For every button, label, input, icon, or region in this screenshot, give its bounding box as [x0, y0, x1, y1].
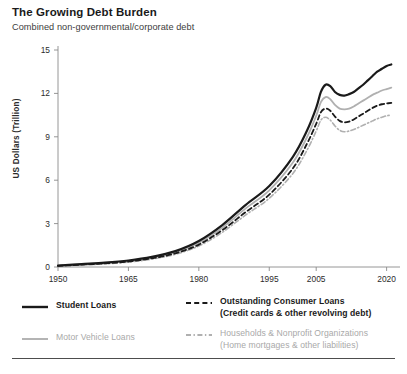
y-tick-label: 0 [45, 262, 50, 272]
x-tick-label: 1980 [190, 274, 209, 284]
legend-label-households-line2: (Home mortgages & other liabilities) [220, 340, 358, 350]
y-axis-label: US Dollars (Trillion) [12, 79, 21, 199]
series-line [58, 103, 391, 266]
legend-swatch-dashed-dark-icon [186, 297, 212, 309]
series-line [58, 88, 391, 266]
y-tick-label: 6 [45, 175, 50, 185]
page-title: The Growing Debt Burden [12, 6, 157, 18]
chart-legend: Student Loans Outstanding Consumer Loans… [0, 296, 407, 358]
chart-container: The Growing Debt Burden Combined non-gov… [0, 0, 407, 374]
x-tick-label: 2005 [307, 274, 326, 284]
legend-label-consumer-loans-line2: (Credit cards & other revolving debt) [220, 308, 371, 318]
series-line [58, 115, 391, 266]
legend-swatch-dashdot-light-icon [186, 329, 212, 341]
y-tick-label: 15 [41, 45, 51, 55]
legend-item-motor-vehicle-loans: Motor Vehicle Loans [22, 332, 135, 345]
legend-item-consumer-loans: Outstanding Consumer Loans (Credit cards… [186, 296, 371, 319]
legend-bottom-divider [12, 358, 395, 359]
x-tick-label: 1950 [49, 274, 68, 284]
legend-item-households: Households & Nonprofit Organizations (Ho… [186, 328, 368, 351]
legend-swatch-solid-dark-icon [22, 301, 48, 313]
plot-area: US Dollars (Trillion) 036912151950196519… [0, 38, 407, 288]
y-tick-label: 12 [41, 88, 51, 98]
y-tick-label: 9 [45, 132, 50, 142]
legend-label-motor-vehicle-loans: Motor Vehicle Loans [56, 332, 135, 342]
x-tick-label: 1995 [260, 274, 279, 284]
y-tick-label: 3 [45, 219, 50, 229]
x-tick-label: 1965 [119, 274, 138, 284]
legend-label-households-line1: Households & Nonprofit Organizations [220, 328, 368, 338]
chart-subtitle: Combined non-governmental/corporate debt [12, 22, 194, 32]
legend-label-consumer-loans-line1: Outstanding Consumer Loans [220, 296, 344, 306]
x-tick-label: 2020 [377, 274, 396, 284]
series-line [58, 64, 391, 265]
legend-label-student-loans: Student Loans [56, 300, 116, 310]
chart-plot-svg: 03691215195019651980199520052020 [0, 38, 407, 288]
legend-swatch-solid-light-icon [22, 333, 48, 345]
legend-item-student-loans: Student Loans [22, 300, 116, 313]
